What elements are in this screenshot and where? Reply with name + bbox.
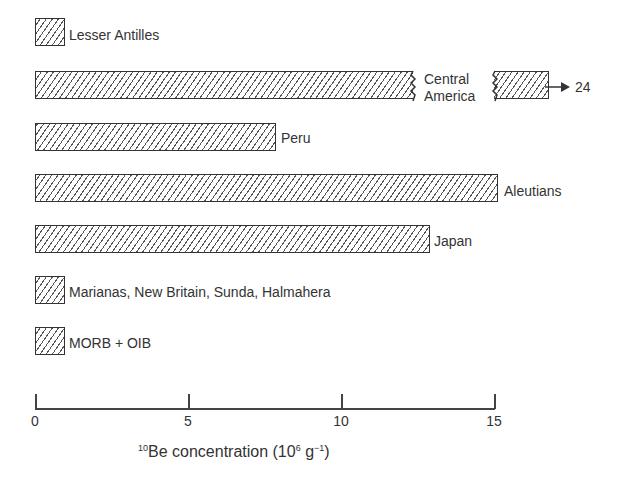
break-mark-icon [490,70,500,102]
x-tick-label-5: 5 [184,413,192,429]
bar-lesser-antilles [35,18,65,46]
label-aleutians: Aleutians [504,183,562,199]
arrow-right-icon [545,81,571,93]
x-axis-tick-10 [341,394,343,409]
bar-morb-oib [35,327,65,355]
bar-central-america [35,71,413,99]
x-tick-label-15: 15 [486,413,502,429]
break-mark-icon [408,70,418,102]
x-axis-title: 10Be concentration (106 g−1) [138,443,330,461]
axis-title-main: Be concentration (10 [148,443,296,460]
x-axis-tick-15 [494,394,496,409]
axis-title-close: ) [324,443,329,460]
label-marianas: Marianas, New Britain, Sunda, Halmahera [69,284,330,300]
label-central-america-2: America [424,88,475,104]
label-central-america-value: 24 [575,79,591,95]
axis-title-unit: g [301,443,314,460]
label-lesser-antilles: Lesser Antilles [69,27,159,43]
axis-title-isotope-mass: 10 [138,443,148,453]
x-axis-line [35,408,495,410]
label-peru: Peru [281,130,311,146]
bar-central-america-continued [494,71,549,99]
bar-japan [35,225,430,253]
label-central-america-1: Central [424,71,469,87]
x-tick-label-10: 10 [333,413,349,429]
bar-aleutians [35,174,498,202]
axis-title-unit-exponent: −1 [314,443,324,453]
x-axis-tick-5 [188,394,190,409]
label-morb-oib: MORB + OIB [69,335,151,351]
x-axis-tick-0 [35,394,37,409]
bar-marianas [35,276,65,304]
x-tick-label-0: 0 [31,413,39,429]
label-japan: Japan [434,233,472,249]
bar-peru [35,123,276,151]
